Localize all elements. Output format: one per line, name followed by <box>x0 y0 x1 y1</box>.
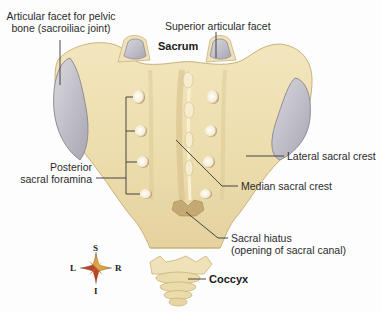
foramen-right-4 <box>200 189 212 199</box>
label-sacrum: Sacrum <box>158 40 198 52</box>
foramen-right-3 <box>203 156 215 168</box>
label-sacral-hiatus: Sacral hiatus (opening of sacral canal) <box>231 232 346 256</box>
compass-superior: S <box>93 243 98 253</box>
foramen-left-2 <box>135 125 147 137</box>
foramen-left-1 <box>133 90 145 104</box>
label-foramina-line1: Posterior <box>0 161 92 173</box>
compass-right: R <box>115 263 122 273</box>
foramen-right-1 <box>207 90 219 104</box>
label-median-sacral-crest: Median sacral crest <box>241 180 332 192</box>
compass-rose-icon <box>80 252 112 284</box>
coccyx-bone <box>150 256 212 306</box>
label-posterior-sacral-foramina: Posterior sacral foramina <box>0 161 92 185</box>
label-articular-facet-line2: bone (sacroiliac joint) <box>2 22 120 34</box>
compass-inferior: I <box>94 286 98 296</box>
foramen-right-2 <box>205 125 217 137</box>
label-lateral-sacral-crest: Lateral sacral crest <box>287 150 376 162</box>
compass-left: L <box>70 263 76 273</box>
label-coccyx: Coccyx <box>209 273 248 285</box>
label-sacral-hiatus-line2: (opening of sacral canal) <box>231 244 346 256</box>
foramen-left-3 <box>137 156 149 168</box>
label-foramina-line2: sacral foramina <box>0 173 92 185</box>
label-superior-articular-facet: Superior articular facet <box>165 20 271 32</box>
label-articular-facet-line1: Articular facet for pelvic <box>2 10 120 22</box>
foramen-left-4 <box>140 189 152 199</box>
label-articular-facet: Articular facet for pelvic bone (sacroil… <box>2 10 120 34</box>
label-sacral-hiatus-line1: Sacral hiatus <box>231 232 346 244</box>
